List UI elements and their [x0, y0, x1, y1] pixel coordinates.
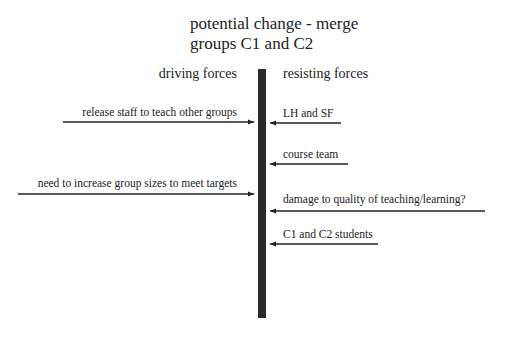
resisting-force-label: course team	[283, 148, 338, 160]
resisting-force-label: damage to quality of teaching/learning?	[283, 193, 466, 206]
title-line-2: groups C1 and C2	[190, 34, 313, 53]
resisting-force-label: LH and SF	[283, 107, 333, 119]
driving-forces-header: driving forces	[159, 66, 237, 81]
resisting-forces-header: resisting forces	[283, 66, 368, 81]
title-line-1: potential change - merge	[190, 14, 358, 33]
status-quo-bar	[258, 69, 266, 318]
force-field-diagram: potential change - merge groups C1 and C…	[0, 0, 506, 338]
driving-force-label: need to increase group sizes to meet tar…	[38, 177, 238, 190]
resisting-force-label: C1 and C2 students	[283, 228, 373, 240]
driving-force-label: release staff to teach other groups	[82, 106, 237, 119]
